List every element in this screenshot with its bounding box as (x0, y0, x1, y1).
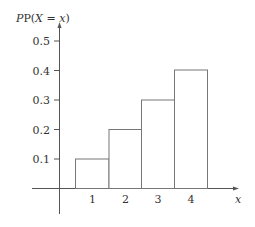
x-axis-label: x (235, 193, 242, 206)
ytick-label: 0.4 (33, 65, 51, 78)
bar-2 (109, 130, 142, 189)
ylabel-close: ) (65, 12, 69, 25)
bar-4 (175, 70, 208, 189)
x-axis-arrow-icon (233, 187, 239, 191)
ytick-label: 0.2 (33, 124, 51, 137)
bar-1 (76, 159, 110, 189)
xtick-label: 1 (89, 193, 96, 206)
xtick-label: 2 (122, 193, 129, 206)
ytick-label: 0.3 (33, 94, 51, 107)
y-axis-label: PP(X = x) (15, 12, 70, 25)
ylabel-eq: = (43, 12, 59, 25)
chart: 0.1 0.2 0.3 0.4 0.5 PP(X = x) 1 2 3 4 x (0, 0, 255, 227)
ytick-label: 0.5 (33, 35, 51, 48)
bar-3 (142, 100, 175, 189)
xtick-label: 3 (155, 193, 162, 206)
ylabel-open: P( (23, 12, 35, 25)
ytick-label: 0.1 (33, 153, 51, 166)
xtick-label: 4 (188, 193, 195, 206)
